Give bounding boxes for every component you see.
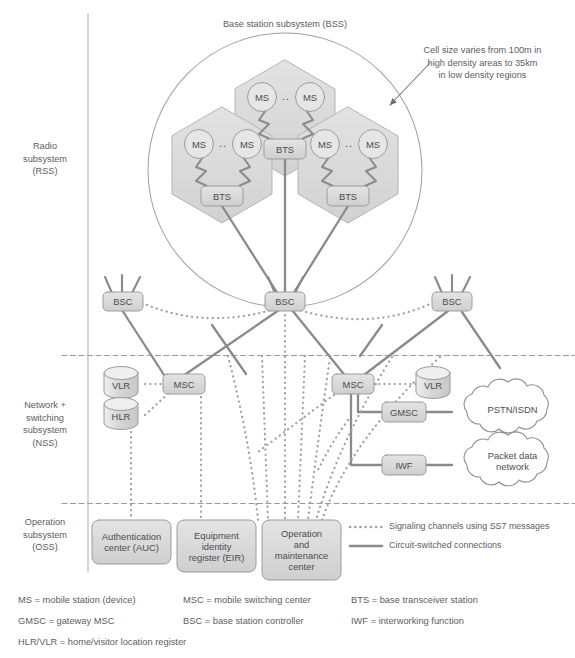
ms-node-c-right xyxy=(296,83,325,112)
sig-omc-fan1 xyxy=(262,356,268,520)
sig-omc-fan7 xyxy=(228,356,258,520)
bts-node-left[interactable] xyxy=(201,186,243,206)
link-bscC-mscR xyxy=(292,310,347,378)
link-bscR-stub xyxy=(360,325,382,356)
link-mscR-iwf xyxy=(351,392,382,465)
sig-bscC-bscR xyxy=(296,303,432,319)
vlr-node-left[interactable] xyxy=(104,367,138,399)
ms-node-r-right xyxy=(359,130,388,159)
footnote-hlr-vlr: HLR/VLR = home/visitor location register xyxy=(18,637,186,647)
ms-node-l-left xyxy=(185,130,214,159)
bsc-center-ant1 xyxy=(268,277,275,293)
iwf-node[interactable] xyxy=(382,455,426,475)
bsc-left-ant1 xyxy=(105,277,112,293)
ms-node-l-right xyxy=(233,130,262,159)
vlr-node-right[interactable] xyxy=(416,367,450,399)
bsc-right-ant1 xyxy=(435,277,442,293)
sidebar-label-nss: Network + switching subsystem (NSS) xyxy=(4,399,86,449)
link-mscR-gmsc xyxy=(358,392,382,412)
gmsc-node[interactable] xyxy=(382,402,426,422)
bts-node-center[interactable] xyxy=(264,139,306,159)
legend-label-circuit: Circuit-switched connections xyxy=(389,540,501,550)
footnote-msc: MSC = mobile switching center xyxy=(183,595,311,605)
sig-bscL-bscC xyxy=(142,303,275,318)
footnote-iwf: IWF = interworking function xyxy=(351,616,464,626)
diagram-canvas: Base station subsystem (BSS) Cell size v… xyxy=(0,0,575,658)
msc-node-right[interactable] xyxy=(332,374,374,394)
legend-label-signaling: Signaling channels using SS7 messages xyxy=(389,521,549,531)
bss-title: Base station subsystem (BSS) xyxy=(195,18,375,31)
link-bscL-stub xyxy=(212,325,246,374)
sidebar-label-rss: Radio subsystem (RSS) xyxy=(4,140,86,178)
sig-omc-fan4 xyxy=(308,358,330,520)
sidebar-label-oss: Operation subsystem (OSS) xyxy=(4,516,86,554)
footnote-bsc: BSC = base station controller xyxy=(183,616,304,626)
msc-node-left[interactable] xyxy=(163,374,205,394)
footnote-bts: BTS = base transceiver station xyxy=(351,595,478,605)
bsc-right-ant3 xyxy=(462,277,470,293)
bsc-node-right[interactable] xyxy=(432,292,472,311)
bsc-node-center[interactable] xyxy=(265,292,305,311)
oss-box-eir[interactable] xyxy=(177,520,256,572)
cloud-packet-data-network[interactable] xyxy=(464,432,548,486)
oss-box-omc[interactable] xyxy=(262,520,341,580)
diagram-graphics xyxy=(0,0,575,658)
link-bscC-mscL xyxy=(180,310,279,378)
sig-mscR-down xyxy=(318,420,348,470)
bts-node-right[interactable] xyxy=(327,186,369,206)
sig-into-mscR xyxy=(258,392,338,452)
link-bscR-extra xyxy=(462,312,500,368)
bsc-node-left[interactable] xyxy=(103,292,143,311)
footnote-gmsc: GMSC = gateway MSC xyxy=(18,616,114,626)
ms-node-r-left xyxy=(311,130,340,159)
bsc-center-ant3 xyxy=(295,277,303,293)
sig-omc-fan3 xyxy=(298,356,305,520)
hlr-node[interactable] xyxy=(104,398,138,430)
cell-size-annotation: Cell size varies from 100m in high densi… xyxy=(395,44,570,82)
ms-node-c-left xyxy=(248,83,277,112)
sig-hlrL-mscL xyxy=(145,392,170,415)
cloud-pstn-isdn[interactable] xyxy=(464,379,548,433)
bsc-left-ant3 xyxy=(132,277,140,293)
footnote-ms: MS = mobile station (device) xyxy=(18,595,136,605)
oss-box-auc[interactable] xyxy=(92,520,171,564)
